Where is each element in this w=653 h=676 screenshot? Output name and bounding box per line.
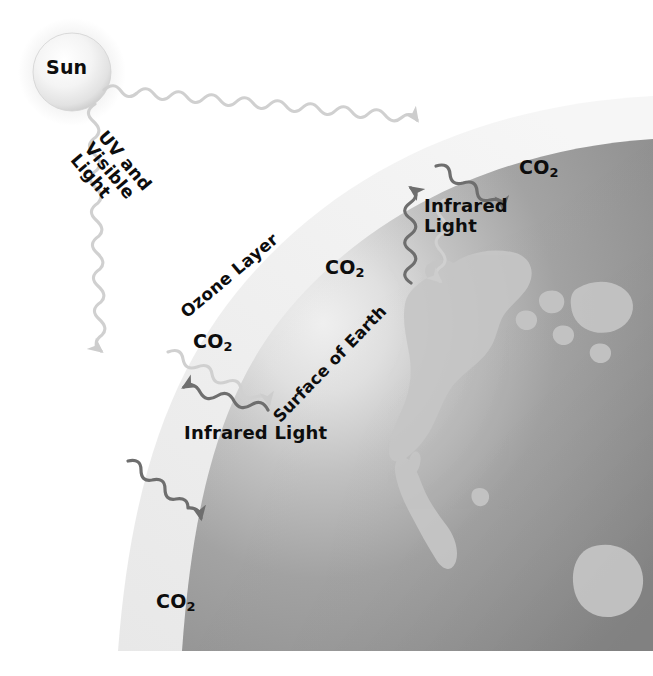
- uv-ray-upper: [104, 86, 417, 121]
- landmass-south-america-tip: [573, 545, 643, 617]
- greenhouse-effect-diagram: Sun UV and Visible Light Ozone Layer Sur…: [0, 0, 653, 676]
- sun-disc: [33, 33, 111, 111]
- uv-ray-lower: [88, 104, 104, 351]
- earth-globe: [182, 139, 653, 651]
- sun-graphic: [18, 18, 126, 126]
- diagram-canvas: [0, 0, 653, 676]
